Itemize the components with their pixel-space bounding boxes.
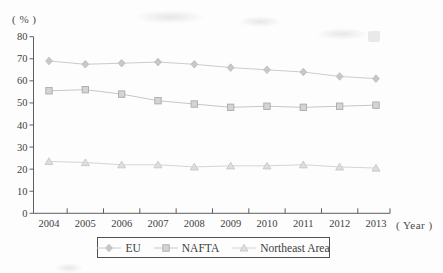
svg-text:50: 50 xyxy=(17,97,28,108)
eu-diamond-marker-icon xyxy=(97,243,121,253)
legend-item-eu: EU xyxy=(97,242,140,254)
svg-text:2011: 2011 xyxy=(293,218,314,229)
legend-item-northeast-area: Northeast Area xyxy=(232,242,329,254)
svg-text:2004: 2004 xyxy=(39,218,61,229)
svg-text:2010: 2010 xyxy=(256,218,277,229)
line-chart-figure: ( % ) ( Year ) 0102030405060708020042005… xyxy=(0,0,443,273)
legend-label-northeast-area: Northeast Area xyxy=(260,242,329,254)
series-eu xyxy=(46,57,380,82)
svg-text:2005: 2005 xyxy=(75,218,96,229)
chart-legend: EU NAFTA Northeast Area xyxy=(97,237,330,258)
svg-text:2012: 2012 xyxy=(329,218,350,229)
svg-text:2009: 2009 xyxy=(220,218,241,229)
series-northeast-area xyxy=(45,158,380,171)
legend-label-eu: EU xyxy=(125,242,140,254)
svg-text:2013: 2013 xyxy=(365,218,386,229)
nafta-square-marker-icon xyxy=(154,243,178,253)
svg-text:2006: 2006 xyxy=(111,218,132,229)
svg-text:70: 70 xyxy=(17,53,28,64)
svg-text:30: 30 xyxy=(17,142,28,153)
series-nafta xyxy=(46,86,379,110)
svg-text:10: 10 xyxy=(17,186,28,197)
svg-text:20: 20 xyxy=(17,164,28,175)
svg-text:2008: 2008 xyxy=(184,218,205,229)
svg-text:0: 0 xyxy=(22,208,27,219)
legend-label-nafta: NAFTA xyxy=(182,242,219,254)
svg-text:80: 80 xyxy=(17,31,28,42)
northeast-area-triangle-marker-icon xyxy=(232,243,256,253)
legend-item-nafta: NAFTA xyxy=(154,242,219,254)
svg-text:2007: 2007 xyxy=(147,218,168,229)
svg-text:40: 40 xyxy=(17,120,28,131)
line-chart-svg: 0102030405060708020042005200620072008200… xyxy=(0,0,443,273)
svg-text:60: 60 xyxy=(17,75,28,86)
